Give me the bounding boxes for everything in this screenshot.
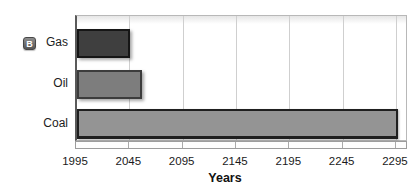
plot-area [75, 15, 407, 141]
category-label-gas: Gas [18, 35, 68, 50]
plot-top-sheen [77, 16, 406, 24]
x-axis-title: Years [160, 171, 290, 185]
x-axis-floor-band [75, 141, 407, 149]
x-axis-tick-mark [182, 142, 183, 148]
x-tick-label: 2145 [213, 155, 257, 167]
x-tick-label: 1995 [53, 155, 97, 167]
x-axis-tick-mark [395, 142, 396, 148]
x-tick-label: 2095 [160, 155, 204, 167]
x-tick-label: 2245 [320, 155, 364, 167]
bar-oil [77, 70, 142, 99]
x-axis-tick-mark [288, 142, 289, 148]
x-tick-label: 2295 [373, 155, 416, 167]
x-tick-label: 2195 [266, 155, 310, 167]
category-label-coal: Coal [18, 116, 68, 131]
bar-chart-figure: B GasOilCoal 199520452095214521952245229… [0, 0, 416, 188]
x-axis-tick-mark [235, 142, 236, 148]
bar-coal [77, 109, 398, 139]
category-label-oil: Oil [18, 76, 68, 91]
bar-gas [77, 29, 130, 58]
x-axis-tick-mark [342, 142, 343, 148]
x-tick-label: 2045 [106, 155, 150, 167]
x-axis-tick-mark [128, 142, 129, 148]
